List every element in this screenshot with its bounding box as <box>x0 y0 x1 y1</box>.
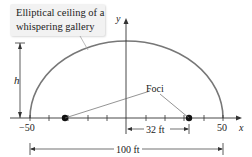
tick-label-left: −50 <box>19 122 35 133</box>
height-label: h <box>14 74 20 86</box>
x-axis-label: x <box>238 122 244 133</box>
x-axis-arrow <box>236 116 242 121</box>
tick-label-right: 50 <box>217 122 227 133</box>
y-axis-label: y <box>115 13 121 24</box>
foci-label: Foci <box>146 83 164 94</box>
y-axis-arrow <box>124 18 129 24</box>
callout-line-2: whispering gallery <box>16 20 105 34</box>
callout-box: Elliptical ceiling of a whispering galle… <box>10 4 105 36</box>
width-label: 100 ft <box>116 144 140 155</box>
callout-line-1: Elliptical ceiling of a <box>16 6 105 20</box>
ellipse-arc <box>30 41 223 118</box>
focus-distance-label: 32 ft <box>146 124 165 135</box>
